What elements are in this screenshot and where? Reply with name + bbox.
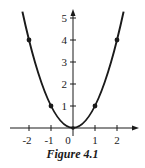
x-axis-arrow-icon: [132, 126, 139, 131]
data-point: [71, 126, 75, 130]
y-tick-label: 3: [62, 56, 68, 68]
data-point: [93, 104, 98, 109]
data-point: [49, 104, 54, 109]
x-tick-label: 2: [114, 134, 120, 146]
data-point: [115, 38, 120, 43]
data-point: [27, 38, 32, 43]
y-axis: 1 2 3 4 5: [62, 9, 77, 136]
y-tick-label: 4: [62, 34, 68, 46]
figure-caption: Figure 4.1: [0, 147, 145, 162]
x-tick-label: -1: [44, 134, 53, 146]
x-tick-label: -2: [22, 134, 31, 146]
x-tick-label: 1: [92, 134, 98, 146]
y-tick-label: 2: [62, 78, 68, 90]
parabola-chart: -2 -1 0 1 2 1 2 3 4 5: [0, 0, 145, 168]
y-axis-arrow-icon: [71, 9, 76, 16]
y-tick-label: 5: [62, 12, 68, 24]
y-tick-label: 1: [62, 100, 68, 112]
x-tick-label: 0: [65, 134, 71, 146]
